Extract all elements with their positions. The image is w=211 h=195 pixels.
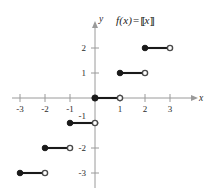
- y-axis-arrow-icon: [92, 21, 98, 28]
- closed-endpoint-0: [92, 95, 98, 101]
- open-endpoint-1: [142, 70, 147, 75]
- y-tick-label-1: 1: [82, 68, 87, 78]
- y-tick-label-2: 2: [82, 43, 87, 53]
- y-axis-label: y: [98, 14, 104, 24]
- axis-name-labels: x y: [98, 14, 204, 103]
- closed-endpoint--3: [17, 170, 23, 176]
- closed-endpoint-1: [117, 70, 123, 76]
- open-endpoint-2: [167, 45, 172, 50]
- right-double-bracket: ]]: [150, 14, 154, 26]
- function-argument: (x): [119, 14, 132, 26]
- x-tick-label-1: 1: [118, 104, 123, 114]
- open-endpoint--2: [67, 145, 72, 150]
- open-endpoint--1: [92, 120, 97, 125]
- graph-canvas: -3 -2 -1 1 2 3 2 1 -1 -2 -3 x y: [0, 0, 211, 195]
- y-tick-label--3: -3: [79, 168, 87, 178]
- x-axis-label: x: [198, 93, 204, 103]
- x-tick-label--2: -2: [41, 104, 49, 114]
- x-axis-arrow-icon: [191, 95, 198, 101]
- x-tick-label--3: -3: [16, 104, 24, 114]
- x-tick-label-3: 3: [168, 104, 173, 114]
- closed-endpoint-2: [142, 45, 148, 51]
- function-formula-label: f(x)=[[x]]: [116, 14, 153, 26]
- y-tick-label--1: -1: [79, 111, 87, 121]
- y-tick-label--2: -2: [79, 143, 87, 153]
- open-endpoint-0: [117, 95, 122, 100]
- bracket-variable: x: [144, 14, 149, 26]
- x-tick-label--1: -1: [66, 104, 74, 114]
- y-axis-tick-labels: 2 1 -1 -2 -3: [79, 43, 87, 178]
- closed-endpoint--2: [42, 145, 48, 151]
- x-tick-label-2: 2: [143, 104, 148, 114]
- closed-endpoint--1: [67, 120, 73, 126]
- step-function-figure: -3 -2 -1 1 2 3 2 1 -1 -2 -3 x y: [0, 0, 211, 195]
- open-endpoint--3: [42, 170, 47, 175]
